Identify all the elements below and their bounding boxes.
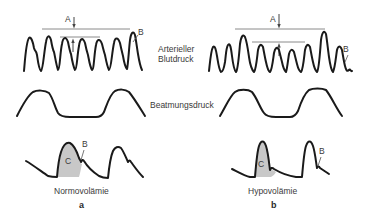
arrowhead-b-up-icon: [277, 43, 280, 48]
arterial-trace-a: [24, 33, 142, 71]
leader-b-top-b: [345, 55, 348, 62]
arterial-trace-b: [209, 32, 352, 72]
arterial-pressure-label-line2: Blutdruck: [158, 54, 194, 64]
panel-letter-b: b: [271, 200, 277, 210]
marker-b-detail-panel-b: B: [319, 146, 325, 156]
arterial-waveform-a: [24, 17, 142, 71]
panel-letter-a: a: [79, 200, 84, 210]
marker-b-top-panel-a: B: [138, 27, 144, 37]
arrowhead-a-down-icon: [72, 24, 75, 29]
arterial-pressure-label: Arterieller Blutdruck: [158, 44, 194, 64]
leader-b-detail-b: [318, 157, 321, 166]
detail-trace-b: [232, 142, 329, 178]
arrowhead-a-up-icon: [71, 39, 74, 44]
ventilation-pressure-label: Beatmungsdruck: [150, 100, 214, 110]
panel-b: [209, 14, 352, 177]
marker-b-top-panel-b: B: [343, 44, 349, 54]
condition-label-a: Normovolämie: [54, 186, 109, 196]
ventilation-trace-b: [220, 89, 342, 118]
panel-a: [17, 17, 145, 178]
marker-b-detail-panel-a: B: [82, 139, 88, 149]
arterial-waveform-b: [209, 14, 352, 72]
arterial-pressure-label-line1: Arterieller: [158, 44, 194, 54]
marker-c-panel-a: C: [65, 156, 71, 166]
marker-a-panel-a: A: [65, 14, 71, 24]
leader-b-detail-a: [81, 150, 84, 160]
ventilation-trace-a: [17, 90, 145, 117]
beat-detail-b: [232, 142, 329, 178]
marker-c-panel-b: C: [258, 159, 264, 169]
arrowhead-b-down-icon: [277, 24, 280, 29]
condition-label-b: Hypovolämie: [248, 186, 297, 196]
marker-a-panel-b: A: [270, 14, 276, 24]
